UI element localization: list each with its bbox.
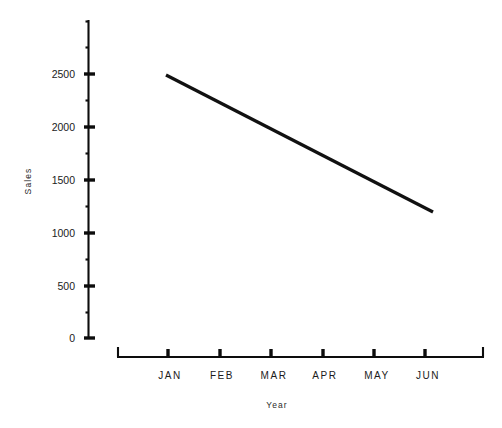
- y-axis-tick-label: 2000: [52, 121, 76, 133]
- y-axis-tick-label: 0: [69, 332, 75, 344]
- y-axis-title: Sales: [23, 168, 33, 195]
- x-axis-title: Year: [266, 400, 288, 410]
- x-axis-tick-label: APR: [312, 370, 337, 381]
- y-axis-tick-label: 500: [57, 280, 75, 292]
- chart-background: [0, 0, 502, 428]
- x-axis-tick-label: JUN: [416, 370, 440, 381]
- y-axis-tick-label: 1000: [52, 227, 76, 239]
- x-axis-tick-label: FEB: [210, 370, 234, 381]
- x-axis-tick-label: MAR: [260, 370, 287, 381]
- chart-canvas: 2500 2000 1500 1000 500 0 Sales: [0, 0, 502, 428]
- x-axis-tick-label: MAY: [364, 370, 390, 381]
- y-axis-tick-label: 1500: [52, 174, 76, 186]
- y-axis-tick-label: 2500: [52, 68, 76, 80]
- x-axis-tick-label: JAN: [158, 370, 182, 381]
- line-chart-figure: 2500 2000 1500 1000 500 0 Sales: [0, 0, 502, 428]
